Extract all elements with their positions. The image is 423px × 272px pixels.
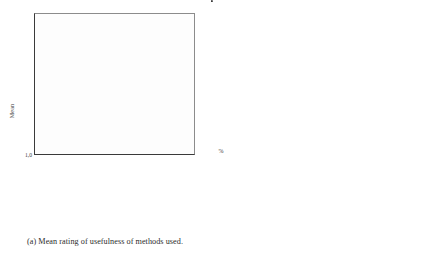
y-axis-label-b: %	[213, 148, 229, 154]
y-tick-label: 1,0	[25, 152, 32, 158]
x-axis-labels-a	[0, 0, 211, 60]
chart-b: %	[211, 0, 422, 215]
figure-panel-a: Mean 1,0 (a) Mean rating of usefulness o…	[0, 0, 211, 272]
figure-caption-a: (a) Mean rating of usefulness of methods…	[27, 236, 187, 247]
figure-panel-b: % (b) Usage of methods.	[211, 0, 422, 272]
x-axis-labels-b	[211, 0, 422, 60]
chart-a: Mean 1,0	[0, 0, 211, 215]
